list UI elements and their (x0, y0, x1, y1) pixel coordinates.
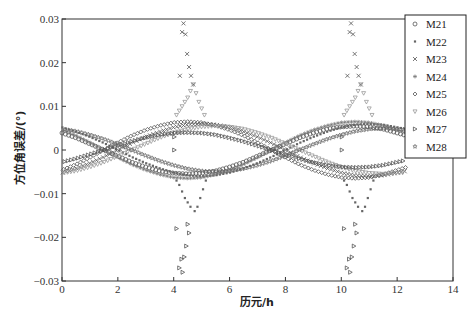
star-marker (358, 128, 362, 132)
asterisk-marker (169, 175, 173, 179)
square-marker (175, 172, 177, 174)
triangle-down-marker (180, 105, 184, 109)
triangle-right-marker (345, 266, 349, 270)
legend-label: M23 (426, 53, 447, 65)
triangle-down-marker (149, 140, 153, 144)
triangle-down-marker (92, 164, 96, 168)
triangle-down-marker (183, 100, 187, 104)
diamond-marker (166, 122, 170, 126)
triangle-right-marker (173, 148, 177, 152)
asterisk-marker (313, 128, 317, 132)
triangle-down-marker (102, 160, 106, 164)
x-tick-label: 14 (448, 283, 460, 295)
square-marker (172, 171, 174, 173)
square-marker (367, 197, 369, 199)
x-marker (349, 21, 353, 25)
x-tick-label: 12 (392, 283, 403, 295)
asterisk-marker (202, 175, 206, 179)
triangle-down-marker (364, 100, 368, 104)
square-marker (194, 210, 196, 212)
x-marker (339, 171, 343, 175)
asterisk-marker (205, 174, 209, 178)
triangle-down-marker (96, 163, 100, 167)
triangle-right-marker (342, 227, 346, 231)
triangle-right-marker (173, 135, 177, 139)
triangle-right-marker (354, 222, 358, 226)
square-marker (343, 126, 345, 128)
square-marker (364, 206, 366, 208)
x-marker (171, 125, 175, 129)
x-marker (178, 74, 182, 78)
triangle-down-marker (350, 100, 354, 104)
x-marker (355, 65, 359, 69)
asterisk-marker (88, 141, 92, 145)
y-axis-ticks: −0.03−0.02−0.0100.010.020.03 (34, 13, 66, 287)
asterisk-marker (145, 168, 149, 172)
square-marker (61, 126, 63, 128)
triangle-down-marker (175, 113, 179, 117)
triangle-down-marker (89, 165, 93, 169)
x-axis-ticks: 02468101214 (59, 277, 459, 295)
legend-label: M25 (426, 88, 447, 100)
asterisk-marker (370, 121, 374, 125)
triangle-down-marker (189, 127, 193, 131)
square-marker (329, 130, 331, 132)
square-marker (138, 159, 140, 161)
y-tick-label: 0.03 (40, 13, 60, 25)
square-marker (350, 124, 352, 126)
asterisk-marker (262, 152, 266, 156)
square-marker (354, 201, 356, 203)
diamond-marker (330, 173, 334, 177)
asterisk-marker (373, 122, 377, 126)
square-marker (169, 170, 171, 172)
square-marker (184, 197, 186, 199)
square-marker (346, 184, 348, 186)
square-marker (196, 206, 198, 208)
diamond-marker (162, 123, 166, 127)
legend-label: M21 (426, 18, 447, 30)
triangle-down-marker (202, 113, 206, 117)
x-marker (351, 32, 355, 36)
triangle-down-marker (99, 162, 103, 166)
asterisk-marker (165, 174, 169, 178)
x-marker (180, 30, 184, 34)
square-marker (336, 127, 338, 129)
triangle-down-marker (188, 89, 192, 93)
square-marker (148, 163, 150, 165)
square-marker (326, 131, 328, 133)
square-marker (303, 140, 305, 142)
x-marker (336, 170, 340, 174)
square-marker (202, 188, 204, 190)
square-marker (142, 161, 144, 163)
triangle-down-marker (86, 166, 90, 170)
triangle-right-marker (352, 244, 356, 248)
series-m27 (63, 131, 405, 275)
square-marker (132, 156, 134, 158)
triangle-right-marker (175, 227, 179, 231)
x-marker (185, 52, 189, 56)
triangle-down-marker (139, 144, 143, 148)
data-series (60, 21, 408, 274)
triangle-down-marker (362, 92, 366, 96)
square-marker (309, 137, 311, 139)
asterisk-marker (259, 154, 263, 158)
triangle-down-marker (197, 100, 201, 104)
square-marker (152, 165, 154, 167)
square-marker (372, 179, 374, 181)
asterisk-marker (158, 173, 162, 177)
square-marker (162, 168, 164, 170)
square-marker (306, 139, 308, 141)
asterisk-marker (155, 172, 159, 176)
diamond-marker (169, 121, 173, 125)
triangle-down-marker (348, 105, 352, 109)
square-marker (145, 162, 147, 164)
triangle-right-marker (185, 244, 189, 248)
x-marker (353, 52, 357, 56)
square-marker (182, 173, 184, 175)
square-marker (272, 155, 274, 157)
square-marker (313, 136, 315, 138)
y-tick-label: −0.03 (34, 275, 60, 287)
triangle-right-marker (355, 231, 359, 235)
square-marker (361, 210, 363, 212)
x-tick-label: 6 (227, 283, 233, 295)
